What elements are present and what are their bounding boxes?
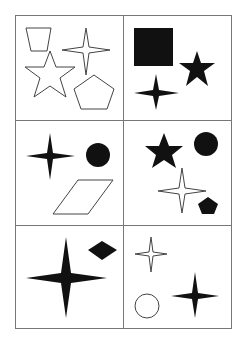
square-filled-icon [134,28,173,66]
five-point-star-filled-icon [145,133,183,168]
five-point-star-filled-icon [179,51,215,86]
cell-r3c2 [135,237,219,318]
cell-r1c2 [134,28,215,110]
cell-r1c1 [25,28,114,109]
cell-r2c1 [26,133,113,214]
four-point-star-outline-icon [158,168,206,213]
circle-outline-icon [135,294,159,318]
shape-grid-figure [0,0,243,349]
parallelogram-outline-icon [53,180,113,214]
circle-filled-icon [86,143,110,167]
four-point-star-outline-icon [135,237,167,272]
pentagon-outline-icon [74,75,114,109]
cell-r3c1 [26,237,117,318]
cell-r2c2 [145,132,218,214]
pentagon-filled-icon [198,197,218,214]
circle-filled-icon [194,132,218,156]
four-point-star-filled-icon [171,272,219,318]
four-point-star-filled-icon [26,133,75,180]
four-point-star-filled-icon [134,74,179,110]
diamond-filled-icon [88,241,117,260]
trapezoid-outline-icon [26,28,51,51]
five-point-star-outline-icon [25,51,75,97]
